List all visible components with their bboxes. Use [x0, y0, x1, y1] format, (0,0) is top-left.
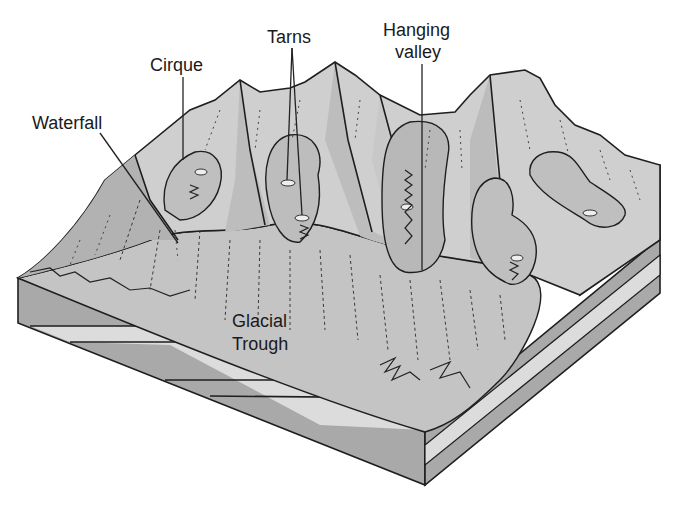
tarn-1 — [195, 169, 207, 175]
label-tarns-text: Tarns — [267, 27, 311, 47]
label-cirque-text: Cirque — [150, 55, 203, 75]
label-hanging-valley-line1: Hanging — [383, 20, 450, 40]
tarn-2 — [281, 180, 295, 186]
tarn-5 — [583, 210, 597, 216]
tarn-6 — [511, 255, 523, 261]
cirque-hanging-valley — [382, 121, 449, 272]
label-glacial-trough-line1: Glacial — [232, 311, 287, 331]
tarn-3 — [295, 215, 309, 221]
label-hanging-valley-line2: valley — [395, 42, 441, 62]
label-glacial-trough-line2: Trough — [232, 334, 288, 354]
glacial-landforms-diagram: Waterfall Cirque Tarns Hanging valley Gl… — [0, 0, 680, 505]
label-waterfall-text: Waterfall — [32, 113, 102, 133]
